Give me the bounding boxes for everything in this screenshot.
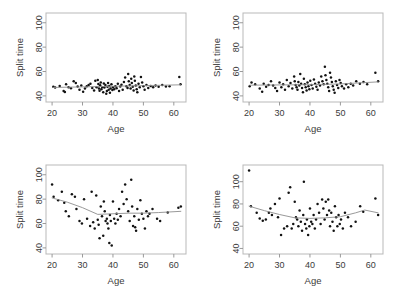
data-point xyxy=(123,81,126,84)
y-tick-label: 80 xyxy=(231,42,241,52)
data-point xyxy=(274,87,277,90)
y-axis-title: Split time xyxy=(211,190,222,229)
data-point xyxy=(133,215,136,218)
data-point xyxy=(117,219,120,222)
data-point xyxy=(296,89,299,92)
data-points xyxy=(52,73,182,95)
data-point xyxy=(134,79,137,82)
x-axis-title: Age xyxy=(305,275,322,286)
data-point xyxy=(93,227,96,230)
data-point xyxy=(318,212,321,215)
data-point xyxy=(311,87,314,90)
y-tick-label: 40 xyxy=(34,91,44,101)
data-point xyxy=(314,227,317,230)
data-point xyxy=(340,218,343,221)
data-point xyxy=(52,195,55,198)
x-tick-label: 50 xyxy=(335,260,345,270)
data-point xyxy=(102,234,105,237)
data-point xyxy=(122,203,125,206)
data-point xyxy=(303,180,306,183)
data-point xyxy=(302,214,305,217)
data-point xyxy=(302,91,305,94)
data-point xyxy=(319,223,322,226)
data-point xyxy=(121,191,124,194)
data-point xyxy=(61,191,64,194)
data-point xyxy=(103,210,106,213)
data-point xyxy=(78,89,81,92)
data-point xyxy=(325,79,328,82)
x-tick-label: 40 xyxy=(108,260,118,270)
y-tick-label: 60 xyxy=(34,67,44,77)
data-point xyxy=(109,92,112,95)
data-point xyxy=(104,220,107,223)
data-point xyxy=(332,85,335,88)
data-point xyxy=(100,205,103,208)
data-point xyxy=(131,205,134,208)
data-point xyxy=(292,223,295,226)
y-axis-title: Split time xyxy=(211,38,222,77)
data-point xyxy=(110,83,113,86)
data-point xyxy=(331,81,334,84)
data-point xyxy=(297,225,300,228)
data-point xyxy=(354,220,357,223)
trend-line xyxy=(53,85,180,88)
scatter-panel-top-left: 2030405060406080100AgeSplit time xyxy=(0,0,197,152)
data-point xyxy=(113,217,116,220)
data-point xyxy=(287,192,290,195)
data-point xyxy=(330,212,333,215)
data-point xyxy=(312,214,315,217)
x-axis-title: Age xyxy=(108,275,125,286)
y-tick-label: 100 xyxy=(34,15,44,30)
data-point xyxy=(329,225,332,228)
data-point xyxy=(133,75,136,78)
x-tick-label: 40 xyxy=(108,108,118,118)
data-point xyxy=(127,210,130,213)
scatter-panel-top-right: 2030405060406080100AgeSplit time xyxy=(197,0,394,152)
data-point xyxy=(125,198,128,201)
data-point xyxy=(127,73,130,76)
y-axis-title: Split time xyxy=(14,190,25,229)
data-point xyxy=(83,198,86,201)
data-point xyxy=(65,83,68,86)
data-point xyxy=(136,91,139,94)
data-point xyxy=(299,73,302,76)
data-point xyxy=(121,89,124,92)
data-point xyxy=(145,210,148,213)
data-point xyxy=(143,89,146,92)
y-tick-label: 100 xyxy=(34,167,44,182)
data-point xyxy=(118,208,121,211)
data-point xyxy=(280,86,283,89)
data-point xyxy=(293,75,296,78)
data-point xyxy=(98,237,101,240)
data-point xyxy=(71,193,74,196)
data-point xyxy=(101,215,104,218)
data-point xyxy=(329,71,332,74)
data-point xyxy=(344,212,347,215)
data-point xyxy=(98,87,101,90)
data-point xyxy=(290,227,293,230)
data-point xyxy=(65,210,68,213)
data-point xyxy=(128,220,131,223)
data-points xyxy=(248,169,380,236)
data-point xyxy=(301,229,304,232)
x-axis-title: Age xyxy=(108,123,125,134)
x-tick-label: 60 xyxy=(366,260,376,270)
data-point xyxy=(107,82,110,85)
data-point xyxy=(110,244,113,247)
data-point xyxy=(258,217,261,220)
data-point xyxy=(324,65,327,68)
data-point xyxy=(134,226,137,229)
data-point xyxy=(139,199,142,202)
data-point xyxy=(296,218,299,221)
y-tick-label: 100 xyxy=(231,174,241,189)
data-point xyxy=(115,87,118,90)
data-point xyxy=(95,194,98,197)
data-point xyxy=(291,87,294,90)
data-point xyxy=(334,205,337,208)
y-tick-label: 80 xyxy=(34,194,44,204)
x-tick-label: 20 xyxy=(47,108,57,118)
data-point xyxy=(151,208,154,211)
data-point xyxy=(374,71,377,74)
trend-line xyxy=(52,198,181,214)
data-point xyxy=(92,221,95,224)
